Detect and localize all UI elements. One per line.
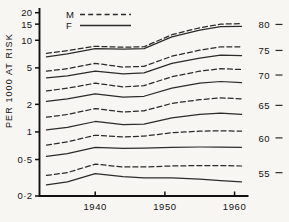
legend: M F (66, 9, 131, 31)
series-line-m-60 (46, 131, 241, 145)
chart-container: 2015105210·50·2 194019501960 80757065605… (0, 0, 289, 222)
data-series-group (46, 24, 241, 185)
series-line-f-65 (46, 113, 241, 130)
y-tick-label-6: 0·5 (18, 154, 33, 165)
line-chart: 2015105210·50·2 194019501960 80757065605… (0, 0, 289, 222)
y-tick-label-5: 1 (27, 126, 33, 137)
y-axis-title: PER 1000 AT RISK (4, 33, 14, 128)
x-tick-label-1: 1950 (153, 201, 177, 212)
series-line-f-60 (46, 147, 241, 156)
series-line-m-70 (46, 69, 241, 91)
x-tick-label-0: 1940 (83, 201, 107, 212)
legend-label-female: F (66, 20, 72, 31)
y-tick-label-1: 15 (21, 19, 32, 30)
legend-label-male: M (66, 9, 74, 20)
y-tick-label-0: 20 (21, 7, 32, 18)
y-tick-label-4: 2 (27, 99, 33, 110)
series-line-m-55 (46, 164, 241, 175)
y-tick-label-3: 5 (27, 62, 33, 73)
y-tick-label-7: 0·2 (18, 190, 33, 201)
y-axis-tick-labels: 2015105210·50·2 (18, 7, 33, 201)
series-line-m-75 (46, 47, 241, 71)
age-group-label-70: 70 (259, 70, 271, 81)
axes (35, 8, 249, 196)
age-group-label-60: 60 (259, 133, 271, 144)
age-group-label-65: 65 (259, 100, 271, 111)
y-tick-label-2: 10 (21, 35, 32, 46)
age-group-labels: 807570656055 (259, 19, 283, 178)
series-line-f-80 (46, 26, 241, 57)
age-group-label-55: 55 (259, 168, 271, 179)
age-group-label-75: 75 (259, 45, 271, 56)
age-group-label-80: 80 (259, 19, 271, 30)
series-line-f-55 (46, 174, 241, 185)
x-axis-tick-labels: 194019501960 (83, 201, 246, 212)
x-tick-label-2: 1960 (223, 201, 247, 212)
